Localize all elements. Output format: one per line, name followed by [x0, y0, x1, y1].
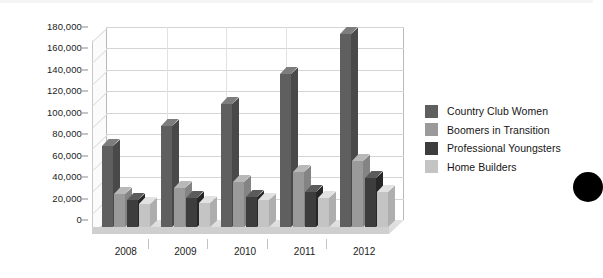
- bar-face: [233, 182, 244, 227]
- bar: [258, 200, 269, 227]
- bar: [199, 203, 210, 227]
- x-axis-tick-label: 2011: [294, 246, 316, 257]
- bar-face: [139, 204, 150, 227]
- bar-face: [258, 200, 269, 227]
- y-axis-tick-mark: [82, 155, 88, 156]
- y-axis-tick-label: 100,000: [47, 108, 82, 118]
- bar-face: [161, 126, 172, 227]
- legend-swatch: [425, 160, 438, 173]
- bar: [174, 188, 185, 227]
- y-axis-tick-label: 60,000: [52, 151, 82, 161]
- x-axis: 20082009201020112012: [92, 243, 404, 265]
- y-axis-tick-mark: [82, 91, 88, 92]
- bar-face: [221, 104, 232, 227]
- y-axis-tick-label: 180,000: [47, 22, 82, 32]
- bar: [127, 200, 138, 227]
- bar: [139, 204, 150, 227]
- y-axis-tick-label: 160,000: [47, 44, 82, 54]
- y-axis-tick-mark: [82, 48, 88, 49]
- legend-label: Professional Youngsters: [447, 143, 561, 154]
- bar: [318, 198, 329, 227]
- bar-face: [293, 172, 304, 227]
- bar-face: [186, 198, 197, 227]
- y-axis-tick-mark: [82, 134, 88, 135]
- x-axis-separator: [267, 239, 268, 249]
- legend-label: Home Builders: [447, 162, 517, 173]
- bar: [102, 146, 113, 227]
- y-axis-tick-mark: [82, 69, 88, 70]
- gridline: [106, 27, 404, 28]
- bar-face: [340, 34, 351, 227]
- y-axis-tick-label: 80,000: [52, 129, 82, 139]
- bar: [377, 192, 388, 227]
- gridline: [106, 70, 404, 71]
- bar-face: [305, 192, 316, 227]
- bar-face: [365, 178, 376, 227]
- scan-artifact-blob: [573, 172, 603, 202]
- y-axis-tick-label: 120,000: [47, 87, 82, 97]
- legend-item: Professional Youngsters: [425, 139, 590, 158]
- y-axis-tick-mark: [82, 198, 88, 199]
- bar: [340, 34, 351, 227]
- bar-face: [352, 161, 363, 227]
- x-axis-tick-label: 2008: [115, 246, 137, 257]
- bar: [293, 172, 304, 227]
- legend-item: Boomers in Transition: [425, 121, 590, 140]
- x-axis-separator: [207, 239, 208, 249]
- y-axis: 020,00040,00060,00080,000100,000120,0001…: [18, 20, 88, 242]
- bar-face: [280, 74, 291, 227]
- gridline: [106, 113, 404, 114]
- legend-label: Country Club Women: [447, 106, 548, 117]
- y-axis-tick-label: 20,000: [52, 194, 82, 204]
- bar: [221, 104, 232, 227]
- x-axis-tick-label: 2009: [174, 246, 196, 257]
- x-axis-tick-label: 2012: [353, 246, 375, 257]
- x-axis-separator: [326, 239, 327, 249]
- gridline: [106, 48, 404, 49]
- bar-face: [377, 192, 388, 227]
- gridline: [106, 91, 404, 92]
- chart-floor-front: [92, 227, 389, 234]
- bar-face: [199, 203, 210, 227]
- bar: [233, 182, 244, 227]
- bar-face: [102, 146, 113, 227]
- y-axis-tick-label: 40,000: [52, 172, 82, 182]
- bar: [352, 161, 363, 227]
- bar-face: [318, 198, 329, 227]
- bar-face: [246, 197, 257, 227]
- legend-swatch: [425, 123, 438, 136]
- y-axis-tick-mark: [82, 177, 88, 178]
- bar-face: [127, 200, 138, 227]
- bar: [186, 198, 197, 227]
- gridline: [106, 134, 404, 135]
- y-axis-tick-mark: [82, 220, 88, 221]
- bar: [246, 197, 257, 227]
- legend-swatch: [425, 142, 438, 155]
- x-axis-tick-label: 2010: [234, 246, 256, 257]
- x-axis-separator: [148, 239, 149, 249]
- y-axis-tick-label: 140,000: [47, 65, 82, 75]
- legend-item: Country Club Women: [425, 102, 590, 121]
- bar-face: [174, 188, 185, 227]
- bar: [305, 192, 316, 227]
- y-axis-tick-mark: [82, 112, 88, 113]
- plot-area: [92, 27, 404, 234]
- scan-edge: [0, 0, 593, 3]
- legend-item: Home Builders: [425, 158, 590, 177]
- legend-label: Boomers in Transition: [447, 125, 550, 136]
- chart-legend: Country Club WomenBoomers in TransitionP…: [425, 102, 590, 176]
- bar-side: [388, 185, 395, 227]
- bar-face: [114, 194, 125, 227]
- bar: [161, 126, 172, 227]
- bar: [114, 194, 125, 227]
- y-axis-tick-mark: [82, 27, 88, 28]
- bar: [365, 178, 376, 227]
- bar: [280, 74, 291, 227]
- legend-swatch: [425, 105, 438, 118]
